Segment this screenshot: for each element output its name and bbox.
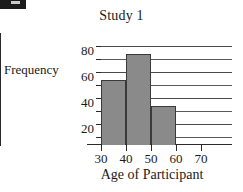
x-tick-mark-60 <box>176 144 177 151</box>
x-tick-label-50: 50 <box>139 152 163 166</box>
y-axis-label: Frequency <box>4 62 59 78</box>
plot-area <box>101 39 232 145</box>
x-tick-mark-70 <box>201 144 202 151</box>
x-axis-label: Age of Participant <box>72 167 232 183</box>
chart-screenshot: Study 1 Frequency 80 60 40 20 30 <box>0 0 243 192</box>
gridline-60 <box>101 72 232 73</box>
gridline-70 <box>101 59 232 60</box>
x-tick-label-40: 40 <box>114 152 138 166</box>
y-tick-label-60: 60 <box>66 70 94 83</box>
x-tick-mark-40 <box>126 144 127 151</box>
y-tick-label-20: 20 <box>66 122 94 135</box>
y-tick-label-80: 80 <box>66 44 94 57</box>
bar-40-50 <box>126 54 151 145</box>
y-tick-label-40: 40 <box>66 96 94 109</box>
x-tick-label-60: 60 <box>164 152 188 166</box>
y-axis-line <box>0 33 1 146</box>
bar-50-60 <box>151 106 176 145</box>
scan-edge-artifact-highlight <box>11 1 20 4</box>
x-tick-label-70: 70 <box>189 152 213 166</box>
gridline-80 <box>101 46 232 47</box>
page-title: Study 1 <box>0 8 243 24</box>
x-tick-mark-50 <box>151 144 152 151</box>
x-tick-label-30: 30 <box>89 152 113 166</box>
x-axis-tick-labels: 30 40 50 60 70 <box>0 152 243 168</box>
bar-30-40 <box>101 80 126 145</box>
x-tick-mark-30 <box>101 144 102 151</box>
